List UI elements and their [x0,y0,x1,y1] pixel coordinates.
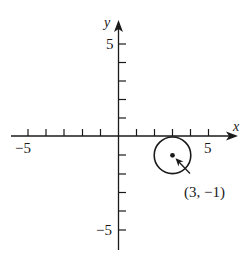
y-tick-label-5: 5 [106,36,114,52]
center-point [170,153,175,158]
y-axis-label: y [102,15,111,30]
x-axis-label: x [232,119,240,134]
y-axis-ticks [119,44,127,230]
x-tick-label-neg5: −5 [15,140,31,156]
y-tick-label-neg5: −5 [96,222,112,238]
center-point-label: (3, −1) [184,184,225,201]
x-axis: x −5 5 [11,119,240,156]
coordinate-plane: x −5 5 y 5 −5 (3, −1) [0,0,247,262]
x-tick-label-5: 5 [204,140,212,156]
